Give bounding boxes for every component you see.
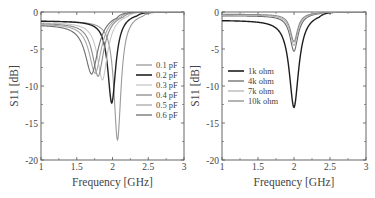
y-tick-label: -10 xyxy=(206,82,219,92)
legend-label: 10k ohm xyxy=(248,96,278,106)
plot-frame xyxy=(222,12,366,160)
x-tick-label: 2 xyxy=(110,162,115,172)
x-tick-label: 1 xyxy=(39,162,44,172)
y-axis-label: S11 [dB] xyxy=(8,65,20,106)
legend-label: 0.2 pF xyxy=(156,70,178,80)
figure: 11.522.530-5-10-15-20Frequency [GHz]S11 … xyxy=(0,0,375,198)
y-tick-label: -20 xyxy=(25,156,38,166)
x-axis-label: Frequency [GHz] xyxy=(72,176,153,189)
x-tick-label: 2.5 xyxy=(324,162,336,172)
x-tick-label: 2.5 xyxy=(142,162,154,172)
y-tick-label: -5 xyxy=(211,45,219,55)
y-tick-label: 0 xyxy=(33,8,38,18)
legend: 1k ohm4k ohm7k ohm10k ohm xyxy=(228,66,278,106)
series-group xyxy=(222,12,366,107)
legend-label: 0.4 pF xyxy=(156,90,178,100)
y-tick-label: -15 xyxy=(206,119,219,129)
legend: 0.1 pF0.2 pF0.3 pF0.4 pF0.5 pF0.6 pF xyxy=(136,60,178,120)
y-tick-label: -5 xyxy=(30,45,38,55)
x-tick-label: 1.5 xyxy=(71,162,83,172)
legend-label: 0.6 pF xyxy=(156,110,178,120)
legend-label: 4k ohm xyxy=(248,76,274,86)
y-tick-label: -15 xyxy=(25,119,38,129)
legend-label: 0.1 pF xyxy=(156,60,178,70)
y-tick-label: 0 xyxy=(214,8,219,18)
legend-label: 1k ohm xyxy=(248,66,274,76)
series-line-7k-ohm xyxy=(222,12,366,45)
series-line-1k-ohm xyxy=(222,12,366,107)
x-tick-label: 3 xyxy=(182,162,187,172)
x-tick-label: 1.5 xyxy=(252,162,264,172)
x-tick-label: 2 xyxy=(292,162,297,172)
x-axis-label: Frequency [GHz] xyxy=(254,176,335,189)
y-axis-label: S11 [dB] xyxy=(189,65,201,106)
y-tick-label: -20 xyxy=(206,156,219,166)
legend-label: 0.3 pF xyxy=(156,80,178,90)
y-tick-label: -10 xyxy=(25,82,38,92)
x-tick-label: 3 xyxy=(364,162,369,172)
chart-left-capacitance: 11.522.530-5-10-15-20Frequency [GHz]S11 … xyxy=(8,8,187,190)
x-tick-label: 1 xyxy=(220,162,225,172)
legend-label: 0.5 pF xyxy=(156,100,178,110)
legend-label: 7k ohm xyxy=(248,86,274,96)
chart-right-resistance: 11.522.530-5-10-15-20Frequency [GHz]S11 … xyxy=(189,8,369,190)
